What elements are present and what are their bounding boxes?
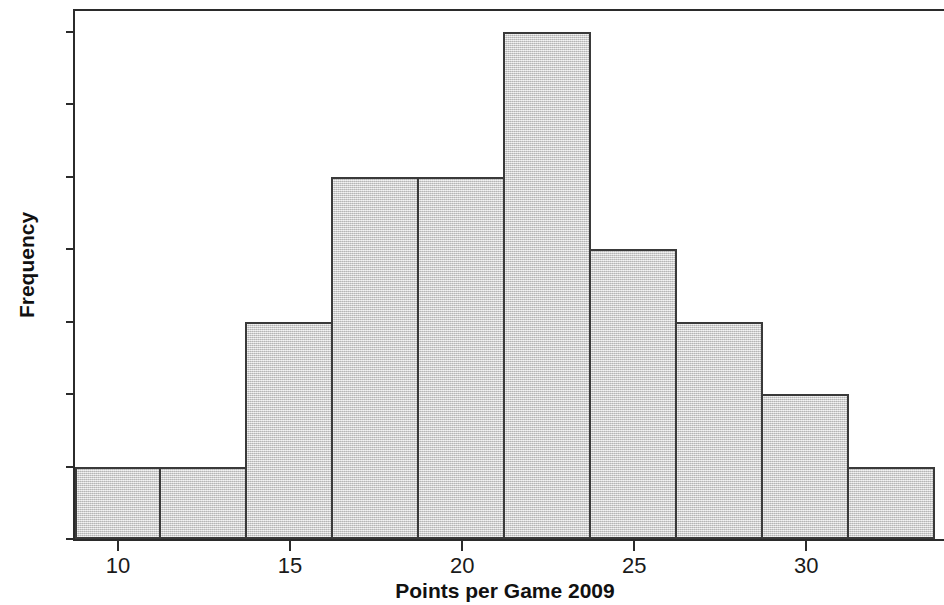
y-axis-tick [66,538,75,540]
histogram-bar [245,322,333,539]
histogram-bar [331,177,419,539]
x-axis-tick-label: 25 [604,553,664,579]
y-axis-title: Frequency [15,185,39,345]
histogram-bar [159,467,247,539]
y-axis-tick [66,466,75,468]
x-axis-tick [633,541,635,551]
y-axis-tick [66,103,75,105]
x-axis-title: Points per Game 2009 [0,579,944,603]
x-axis-tick-label: 20 [432,553,492,579]
x-axis-tick-label: 15 [260,553,320,579]
x-axis-tick-label: 10 [88,553,148,579]
x-axis-tick [461,541,463,551]
y-axis-tick [66,176,75,178]
y-axis-tick [66,248,75,250]
y-axis-tick [66,321,75,323]
histogram-bar [417,177,505,539]
x-axis-tick [117,541,119,551]
histogram-bar [675,322,763,539]
y-axis-tick [66,393,75,395]
x-axis-tick [289,541,291,551]
histogram-bar [847,467,935,539]
histogram-bar [589,249,677,539]
x-axis-tick [805,541,807,551]
histogram-bar [75,467,161,539]
histogram-bar [761,394,849,539]
histogram-figure: 012345671015202530 Frequency Points per … [0,0,944,605]
y-axis-tick [66,31,75,33]
plot-area [75,10,944,539]
x-axis-tick-label: 30 [776,553,836,579]
histogram-bar [503,32,591,539]
x-axis-line [73,539,944,541]
